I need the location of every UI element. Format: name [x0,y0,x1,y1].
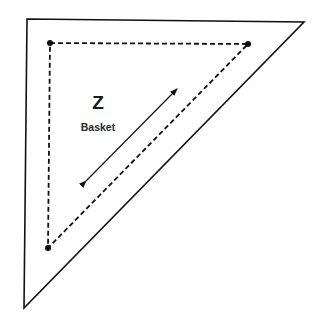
template-drawing [0,0,322,325]
corner-dot-top-right [245,41,251,47]
corner-dot-top-left [47,40,53,46]
outer-cut-line [24,19,304,308]
piece-name: Basket [68,121,128,134]
diagram-canvas: Z Basket [0,0,322,325]
piece-letter: Z [84,93,112,113]
inner-seam-line [48,43,248,248]
corner-dot-bottom [45,245,51,251]
